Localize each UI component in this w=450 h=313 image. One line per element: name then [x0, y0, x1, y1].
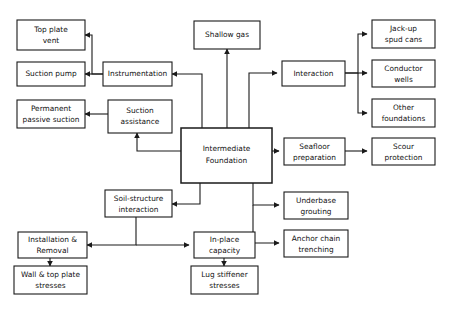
node-label-line2: vent: [43, 36, 60, 45]
node-label-line2: grouting: [300, 207, 331, 216]
node-instrumentation[interactable]: Instrumentation: [103, 62, 172, 86]
node-shallow-gas[interactable]: Shallow gas: [194, 21, 260, 49]
flowchart-diagram: Top plate vent Suction pump Permanent pa…: [0, 0, 450, 313]
node-interaction[interactable]: Interaction: [282, 61, 345, 86]
node-label-line2: assistance: [121, 117, 160, 126]
node-seafloor-preparation[interactable]: Seafloor preparation: [284, 138, 345, 165]
node-label-line2: capacity: [209, 246, 241, 255]
node-scour-protection[interactable]: Scour protection: [372, 138, 435, 165]
node-label-line2: protection: [385, 153, 423, 162]
edge-foundation-to-soil-structure: [172, 183, 200, 204]
node-label-line1: Suction pump: [25, 69, 77, 78]
node-jackup-spud-cans[interactable]: Jack-up spud cans: [372, 20, 435, 48]
node-label-line2: wells: [394, 75, 413, 84]
node-label-line1: Shallow gas: [205, 30, 249, 39]
node-label-line1: Seafloor: [299, 142, 330, 151]
flowchart-canvas: Top plate vent Suction pump Permanent pa…: [0, 0, 450, 313]
node-label-line1: Instrumentation: [108, 69, 168, 78]
edge-soil-structure-to-installation-removal: [87, 217, 136, 245]
node-label-line2: stresses: [209, 281, 239, 290]
edge-foundation-to-suction-assistance: [137, 133, 181, 151]
edge-instrumentation-to-top-plate-vent: [85, 35, 103, 74]
node-label-line1: Permanent: [31, 104, 71, 113]
node-label-line1: Interaction: [293, 69, 333, 78]
node-label-line2: Removal: [36, 246, 68, 255]
node-label-line2: preparation: [293, 153, 336, 162]
node-permanent-passive-suction[interactable]: Permanent passive suction: [17, 100, 85, 128]
node-label-line1: Underbase: [296, 196, 336, 205]
node-label-line1: Jack-up: [389, 24, 417, 33]
node-label-line1: Intermediate: [203, 144, 251, 153]
node-lug-stiffener-stresses[interactable]: Lug stiffener stresses: [191, 266, 258, 294]
node-label-line2: foundations: [382, 114, 426, 123]
edge-foundation-to-interaction: [249, 73, 277, 128]
node-suction-assistance[interactable]: Suction assistance: [108, 100, 172, 133]
edge-interaction-to-other-foundations: [358, 73, 367, 113]
node-conductor-wells[interactable]: Conductor wells: [372, 60, 435, 87]
node-label-line2: trenching: [298, 245, 333, 254]
node-top-plate-vent[interactable]: Top plate vent: [17, 20, 85, 50]
node-underbase-grouting[interactable]: Underbase grouting: [284, 192, 348, 219]
node-label-line1: Suction: [126, 106, 154, 115]
node-label-line1: Top plate: [33, 25, 68, 34]
node-label-line1: Installation &: [28, 235, 77, 244]
node-other-foundations[interactable]: Other foundations: [372, 99, 435, 127]
node-suction-pump[interactable]: Suction pump: [17, 62, 85, 86]
node-layer: Top plate vent Suction pump Permanent pa…: [14, 20, 435, 294]
node-label-line2: interaction: [119, 205, 159, 214]
edge-foundation-to-instrumentation: [172, 74, 202, 128]
node-anchor-chain-trenching[interactable]: Anchor chain trenching: [284, 230, 348, 257]
node-label-line2: Foundation: [206, 156, 248, 165]
node-intermediate-foundation[interactable]: Intermediate Foundation: [181, 128, 272, 183]
node-soil-structure-interaction[interactable]: Soil-structure interaction: [105, 190, 172, 217]
node-label-line1: Conductor: [384, 64, 423, 73]
node-wall-top-plate-stresses[interactable]: Wall & top plate stresses: [14, 266, 87, 294]
node-label-line1: Anchor chain: [292, 234, 341, 243]
node-label-line1: Lug stiffener: [201, 270, 248, 279]
node-label-line1: Soil-structure: [114, 194, 164, 203]
node-in-place-capacity[interactable]: In-place capacity: [194, 232, 255, 258]
node-installation-removal[interactable]: Installation & Removal: [18, 232, 87, 258]
node-label-line2: stresses: [35, 281, 65, 290]
node-label-line1: Scour: [393, 142, 415, 151]
node-label-line2: spud cans: [385, 35, 423, 44]
edge-foundation-to-anchor-chain: [253, 205, 279, 243]
edge-foundation-to-underbase-trunk: [253, 183, 279, 205]
edge-interaction-to-jackup-spud-cans: [345, 34, 367, 73]
node-label-line1: Wall & top plate: [21, 270, 81, 279]
node-label-line1: In-place: [210, 235, 240, 244]
node-label-line2: passive suction: [23, 115, 80, 124]
node-label-line1: Other: [393, 103, 415, 112]
